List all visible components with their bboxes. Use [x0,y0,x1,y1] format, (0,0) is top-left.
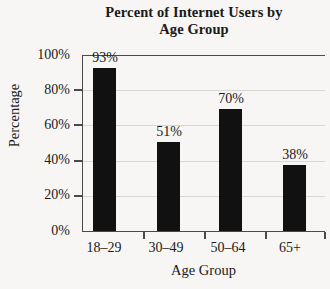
y-tick-label-60: 60% [22,118,70,132]
y-tick-label-80: 80% [22,83,70,97]
chart-title-line-1: Percent of Internet Users by [58,4,330,21]
x-axis-title: Age Group [82,262,325,279]
x-tick-mark-3 [265,232,267,239]
chart-title: Percent of Internet Users by Age Group [58,4,330,38]
gridline-60 [83,125,325,126]
y-tick-label-40: 40% [22,153,70,167]
bar-18-29 [93,68,116,231]
bar-value-label-18-29: 93% [75,50,135,66]
bar-50-64 [219,109,242,232]
y-tick-mark-60 [74,124,82,126]
bar-value-label-50-64: 70% [201,91,261,107]
y-tick-mark-40 [74,160,82,162]
x-tick-mark-4 [324,232,326,239]
x-tick-mark-1 [143,232,145,239]
chart-title-line-2: Age Group [58,21,330,38]
plot-area: 93% 51% 70% 38% [82,55,325,232]
bar-value-label-65-plus: 38% [265,147,325,163]
bar-65-plus [283,165,306,232]
x-tick-mark-2 [204,232,206,239]
y-tick-label-20: 20% [22,188,70,202]
bar-chart: Percent of Internet Users by Age Group 1… [0,0,330,289]
bar-value-label-30-49: 51% [139,124,199,140]
x-tick-label-65-plus: 65+ [250,240,330,256]
y-tick-label-0: 0% [22,224,70,238]
y-axis-title: Percentage [6,56,23,176]
y-tick-label-100: 100% [22,48,70,62]
y-tick-mark-80 [74,89,82,91]
bar-30-49 [157,142,180,231]
y-tick-mark-20 [74,195,82,197]
